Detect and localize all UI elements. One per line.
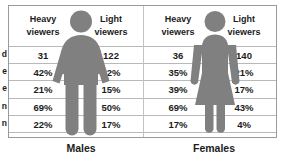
row-label-fragment: e <box>0 80 7 97</box>
row-label-fragment: n <box>0 115 7 132</box>
male-figure-icon <box>50 9 112 141</box>
female-figure-icon <box>184 9 246 141</box>
group-label-males: Males <box>26 142 136 154</box>
row-label-fragment: d <box>0 46 7 63</box>
pictogram-comparison-table: d e e n n Heavy viewers Light viewers <box>0 0 285 164</box>
truncated-row-labels: d e e n n <box>0 46 8 132</box>
group-label-females: Females <box>159 142 269 154</box>
row-label-fragment: n <box>0 98 7 115</box>
row-label-fragment: e <box>0 63 7 80</box>
